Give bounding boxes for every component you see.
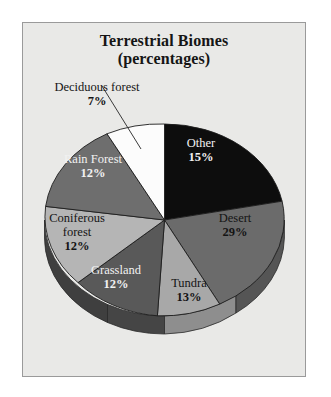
slice-label-coniferous-forest: Coniferous forest 12%	[31, 211, 123, 253]
slice-label-grassland: Grassland 12%	[73, 263, 159, 291]
pie-stage: Other 15% Desert 29% Tundra 13% Grasslan…	[23, 23, 307, 378]
slice-label-other: Other 15%	[167, 136, 235, 164]
chart-panel: Terrestrial Biomes (percentages)	[22, 22, 306, 377]
slice-label-rain-forest: Rain Forest 12%	[47, 152, 139, 180]
pie-svg	[23, 23, 307, 378]
slice-label-deciduous-forest: Deciduous forest 7%	[31, 80, 163, 108]
slice-label-desert: Desert 29%	[199, 211, 271, 239]
pie-chart-figure: Terrestrial Biomes (percentages)	[0, 0, 331, 397]
slice-label-tundra: Tundra 13%	[153, 276, 225, 304]
